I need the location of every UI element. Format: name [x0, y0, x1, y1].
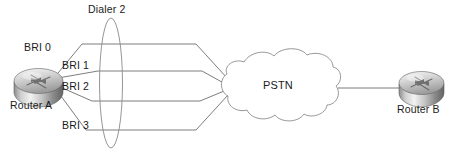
interface-label-bri0: BRI 0	[24, 41, 51, 53]
router-icon-b	[399, 72, 444, 108]
router-b-label: Router B	[397, 103, 440, 115]
dialer-group-ellipse-icon	[100, 18, 123, 148]
interface-label-bri1: BRI 1	[62, 59, 89, 71]
dialer-group-label: Dialer 2	[88, 3, 125, 15]
router-a-label: Router A	[10, 99, 52, 111]
network-diagram: Dialer 2 BRI 0 BRI 1 BRI 2 BRI 3 Router …	[0, 0, 458, 161]
pstn-cloud-label: PSTN	[263, 79, 293, 91]
interface-label-bri2: BRI 2	[62, 80, 89, 92]
interface-label-bri3: BRI 3	[62, 119, 89, 131]
